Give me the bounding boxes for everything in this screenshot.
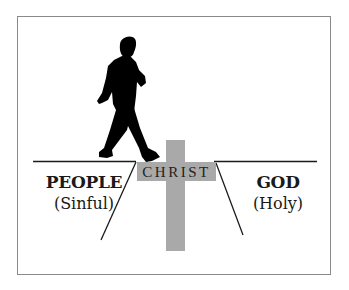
people-subtitle: (Sinful) [36,194,132,213]
right-cliff-wall [216,163,243,235]
cross-icon [166,140,185,251]
bridge-diagram [0,0,349,290]
god-title: GOD [243,172,313,192]
walking-man-silhouette-icon [97,37,160,162]
people-title: PEOPLE [36,172,132,192]
god-subtitle: (Holy) [243,194,313,213]
bridge-label-christ: CHRIST [137,162,216,181]
